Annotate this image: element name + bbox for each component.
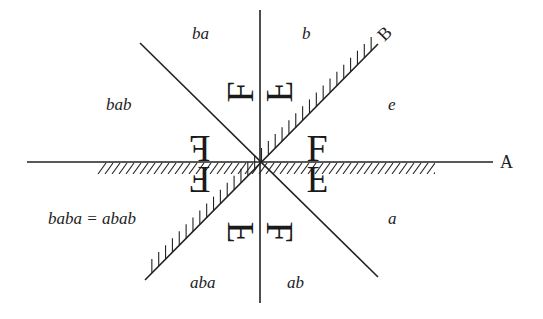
svg-text:F: F bbox=[219, 221, 261, 242]
svg-text:F: F bbox=[219, 81, 261, 102]
f-glyph-a: F bbox=[306, 159, 327, 201]
region-label-bab: bab bbox=[106, 95, 132, 114]
region-label-aba: aba bbox=[190, 273, 216, 292]
f-glyph-b: F bbox=[259, 81, 301, 102]
mirror-b-label: B bbox=[373, 22, 396, 45]
region-label-ba: ba bbox=[192, 24, 209, 43]
mirror-a-label: A bbox=[500, 152, 513, 172]
mirror-a-hatching bbox=[98, 163, 442, 174]
region-label-baba: baba = abab bbox=[48, 209, 136, 228]
region-label-b: b bbox=[302, 24, 311, 43]
reflection-diagram: A B ba b bab e baba = abab a aba ab F F … bbox=[0, 0, 543, 319]
f-glyph-aba: F bbox=[219, 221, 261, 242]
f-glyph-baba: F bbox=[189, 159, 210, 201]
svg-text:F: F bbox=[259, 221, 301, 242]
svg-text:F: F bbox=[306, 159, 327, 201]
f-glyph-ba: F bbox=[219, 81, 261, 102]
region-label-e: e bbox=[388, 95, 396, 114]
svg-text:F: F bbox=[189, 159, 210, 201]
region-label-ab: ab bbox=[287, 273, 304, 292]
f-glyph-ab: F bbox=[259, 221, 301, 242]
svg-text:F: F bbox=[259, 81, 301, 102]
region-label-a: a bbox=[388, 209, 397, 228]
